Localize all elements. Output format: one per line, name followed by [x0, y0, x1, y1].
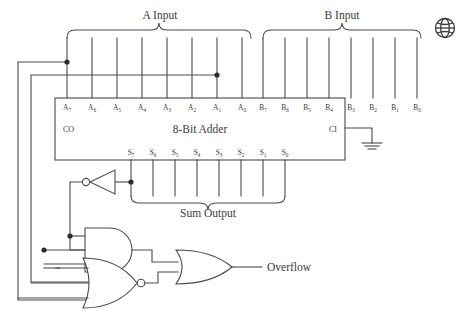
svg-text:A2: A2 [188, 103, 196, 113]
svg-text:S4: S4 [194, 148, 201, 158]
adder-block-label: 8-Bit Adder [173, 123, 228, 135]
svg-text:S7: S7 [128, 148, 135, 158]
a-input-brace [67, 23, 251, 38]
svg-text:B1: B1 [391, 103, 399, 113]
svg-text:B7: B7 [259, 103, 267, 113]
svg-text:A3: A3 [163, 103, 171, 113]
a-input-label: A Input [143, 9, 179, 22]
svg-text:S2: S2 [238, 148, 245, 158]
svg-text:S0: S0 [282, 148, 289, 158]
svg-text:B0: B0 [413, 103, 421, 113]
inverter-bubble [82, 178, 89, 185]
svg-text:A1: A1 [213, 103, 221, 113]
svg-text:S1: S1 [260, 148, 267, 158]
junction-dot-b7 [214, 72, 219, 77]
sum-output-lines [131, 160, 285, 196]
junction-dot-s7 [128, 179, 133, 184]
svg-text:B3: B3 [347, 103, 355, 113]
svg-text:A6: A6 [88, 103, 96, 113]
a-pin-labels: A7 A6 A5 A4 A3 A2 A1 A0 [63, 103, 246, 113]
b-input-label: B Input [325, 9, 361, 22]
carry-in-label: CI [329, 125, 337, 134]
svg-text:S3: S3 [216, 148, 223, 158]
svg-text:S5: S5 [172, 148, 179, 158]
b-input-brace [263, 23, 421, 38]
s-pin-labels: S7 S6 S5 S4 S3 S2 S1 S0 [128, 148, 289, 158]
b-input-lines [263, 38, 417, 98]
nor-output-bubble [137, 279, 145, 287]
circuit-diagram-canvas: A Input B Input Sum Output 8-Bit Adder C… [0, 0, 468, 333]
a-input-lines [67, 38, 242, 98]
svg-text:S6: S6 [150, 148, 157, 158]
svg-text:A0: A0 [238, 103, 246, 113]
junction-dot-and-in2 [41, 247, 46, 252]
carry-out-label: CO [63, 125, 74, 134]
schematic-svg: A Input B Input Sum Output 8-Bit Adder C… [0, 0, 468, 333]
svg-text:B6: B6 [281, 103, 289, 113]
b-pin-labels: B7 B6 B5 B4 B3 B2 B1 B0 [259, 103, 421, 113]
carry-in-ground-wire [345, 128, 382, 149]
svg-text:B5: B5 [303, 103, 311, 113]
overflow-output-label: Overflow [267, 261, 312, 273]
svg-text:A4: A4 [138, 103, 146, 113]
sum-output-label: Sum Output [180, 207, 237, 220]
svg-text:A7: A7 [63, 103, 71, 113]
globe-icon [436, 19, 455, 38]
junction-dot-and-in1 [67, 233, 72, 238]
or-gate [176, 250, 262, 284]
svg-text:B4: B4 [325, 103, 333, 113]
svg-text:A5: A5 [113, 103, 121, 113]
junction-dot-a7 [64, 59, 69, 64]
svg-text:B2: B2 [369, 103, 377, 113]
